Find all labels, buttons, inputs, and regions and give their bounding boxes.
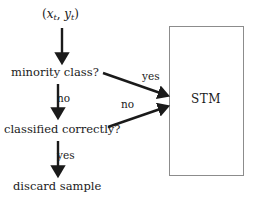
edge-label-minority-yes: yes [142, 71, 160, 82]
input-close-paren: ) [74, 7, 79, 21]
node-stm-label: STM [191, 93, 221, 105]
node-minority-class: minority class? [11, 67, 99, 79]
node-classified-correctly: classified correctly? [4, 124, 121, 136]
node-input-sample: (xt, yt) [42, 8, 79, 20]
input-x-subscript: t [53, 13, 56, 22]
edge-label-minority-no: no [57, 93, 70, 104]
node-discard-sample: discard sample [13, 181, 101, 193]
edge-label-classified-no: no [121, 99, 134, 110]
flowchart-diagram: (xt, yt) minority class? classified corr… [0, 0, 253, 201]
input-y-subscript: t [71, 13, 74, 22]
edge-label-classified-yes: yes [57, 150, 75, 161]
